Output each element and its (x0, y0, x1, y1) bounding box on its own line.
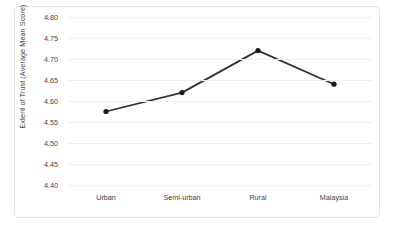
y-tick-label: 4.60 (0, 97, 64, 106)
data-point-marker: Rural: 4.72 (255, 48, 260, 53)
y-tick-label: 4.75 (0, 34, 64, 43)
gridline (68, 80, 372, 81)
x-tick-label: Urban (96, 193, 116, 202)
y-tick-label: 4.40 (0, 181, 64, 190)
y-axis-tick-labels: 4.804.754.704.654.604.554.504.454.40 (0, 17, 64, 185)
y-tick-label: 4.70 (0, 55, 64, 64)
x-tick-label: Rural (249, 193, 266, 202)
gridline (68, 143, 372, 144)
y-tick-label: 4.55 (0, 118, 64, 127)
y-tick-label: 4.80 (0, 13, 64, 22)
gridline (68, 59, 372, 60)
x-axis-tick-labels: UrbanSemi-urbanRuralMalaysia (68, 193, 372, 209)
chart-card: Extent of Trust (Average Mean Score) 4.8… (0, 0, 394, 230)
y-tick-label: 4.45 (0, 160, 64, 169)
data-point-marker: Malaysia: 4.64 (331, 82, 336, 87)
data-point-marker: Semi-urban: 4.62 (179, 90, 184, 95)
gridline (68, 38, 372, 39)
plot-area: Urban: 4.575Semi-urban: 4.62Rural: 4.72M… (68, 17, 372, 185)
gridline (68, 101, 372, 102)
gridline (68, 164, 372, 165)
y-tick-label: 4.65 (0, 76, 64, 85)
gridline (68, 122, 372, 123)
y-tick-label: 4.50 (0, 139, 64, 148)
x-tick-label: Malaysia (320, 193, 348, 202)
data-point-marker: Urban: 4.575 (103, 109, 108, 114)
x-axis-line (68, 185, 372, 186)
gridline (68, 17, 372, 18)
x-tick-label: Semi-urban (163, 193, 200, 202)
